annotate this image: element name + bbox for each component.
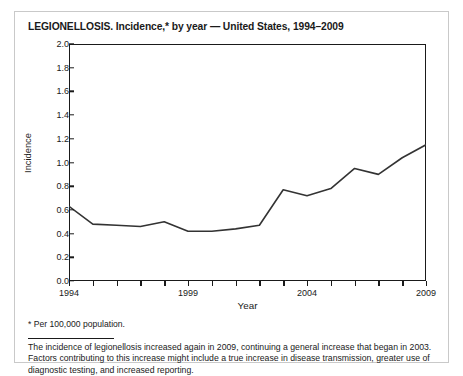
x-tick-mark: [93, 281, 94, 286]
x-tick-mark: [307, 281, 308, 286]
y-tick-mark: [69, 209, 74, 210]
y-tick-label: 0.4: [43, 229, 69, 239]
x-tick-mark: [259, 281, 260, 286]
note-divider: [28, 338, 114, 339]
y-axis-title: Incidence: [23, 113, 33, 193]
y-tick-mark: [69, 257, 74, 258]
x-tick-mark: [188, 281, 189, 286]
y-tick-label: 1.2: [43, 134, 69, 144]
y-tick-mark: [69, 43, 74, 44]
x-tick-mark: [117, 281, 118, 286]
y-axis-ticks: Incidence 0.00.20.40.60.81.01.21.41.61.8…: [15, 44, 69, 281]
x-tick-label: 1999: [168, 288, 208, 298]
footnote-asterisk: * Per 100,000 population.: [28, 319, 125, 329]
x-tick-label: 2004: [287, 288, 327, 298]
y-tick-mark: [69, 67, 74, 68]
y-tick-mark: [69, 162, 74, 163]
y-tick-label: 0.6: [43, 205, 69, 215]
y-tick-label: 1.6: [43, 86, 69, 96]
y-tick-label: 2.0: [43, 39, 69, 49]
x-tick-mark: [236, 281, 237, 286]
figure-card: LEGIONELLOSIS. Incidence,* by year — Uni…: [14, 11, 449, 363]
x-tick-label: 1994: [49, 288, 89, 298]
x-tick-mark: [283, 281, 284, 286]
x-tick-mark: [426, 281, 427, 286]
x-tick-mark: [378, 281, 379, 286]
x-tick-mark: [69, 281, 70, 286]
x-tick-mark: [355, 281, 356, 286]
y-tick-label: 0.8: [43, 181, 69, 191]
y-tick-label: 0.0: [43, 276, 69, 286]
x-tick-mark: [402, 281, 403, 286]
x-tick-mark: [331, 281, 332, 286]
x-tick-label: 2009: [406, 288, 446, 298]
x-tick-mark: [212, 281, 213, 286]
y-tick-label: 1.0: [43, 158, 69, 168]
y-tick-mark: [69, 138, 74, 139]
series-line: [69, 145, 426, 231]
y-tick-mark: [69, 114, 74, 115]
y-tick-mark: [69, 185, 74, 186]
y-tick-label: 0.2: [43, 252, 69, 262]
y-tick-label: 1.4: [43, 110, 69, 120]
x-axis-title: Year: [69, 300, 426, 311]
incidence-line-chart: Incidence 0.00.20.40.60.81.01.21.41.61.8…: [15, 30, 450, 315]
note-paragraph: The incidence of legionellosis increased…: [28, 342, 438, 376]
y-tick-mark: [69, 233, 74, 234]
incidence-series-line: [69, 44, 426, 281]
y-tick-label: 1.8: [43, 63, 69, 73]
x-tick-mark: [164, 281, 165, 286]
y-tick-mark: [69, 91, 74, 92]
x-tick-mark: [140, 281, 141, 286]
